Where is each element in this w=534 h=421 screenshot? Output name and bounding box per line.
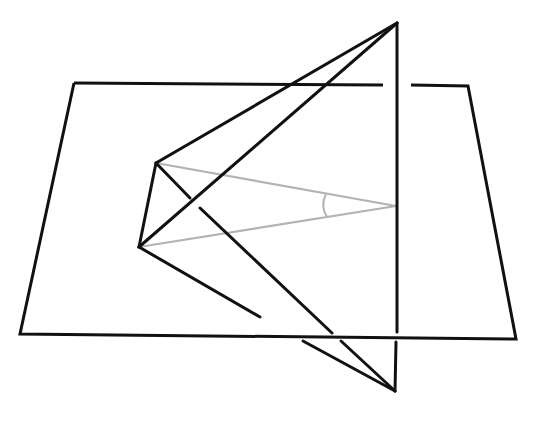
plane-edge-top-left (74, 83, 383, 85)
geometry-diagram (0, 0, 534, 421)
segment-lower-left-to-bottom-a (139, 247, 260, 317)
projection-lines (139, 163, 396, 247)
segment-top-to-upper-left (156, 23, 397, 163)
angle-arc-icon (323, 194, 327, 217)
angle-marker (323, 194, 327, 217)
segment-vertical-bottom-part (395, 342, 396, 391)
plane-edge-rest (20, 83, 516, 339)
plane (20, 83, 516, 339)
segment-top-to-lower-left (139, 23, 397, 247)
